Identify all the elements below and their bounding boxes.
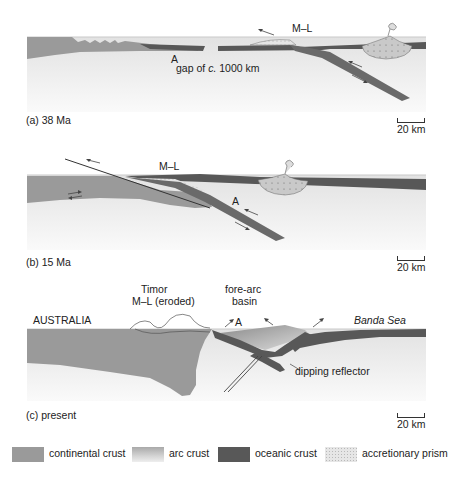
continental-crust-swatch	[12, 447, 44, 462]
label-a: A	[232, 195, 239, 207]
label-ml: M–L	[292, 22, 312, 34]
panel-caption: (a) 38 Ma	[26, 114, 71, 126]
label-ml: M–L	[159, 160, 179, 172]
panel-b: M–L A (b) 15 Ma 20 km	[0, 150, 468, 280]
legend: continental crust arc crust oceanic crus…	[10, 446, 460, 466]
label-timor: Timor	[141, 283, 167, 295]
accretionary-prism-swatch	[325, 447, 357, 462]
label-ml-eroded: M–L (eroded)	[132, 295, 195, 307]
panel-a: M–L A gap of c. 1000 km (a) 38 Ma 20 km	[0, 0, 468, 150]
label-gap: gap of c. 1000 km	[176, 62, 260, 74]
oceanic-crust-swatch	[218, 447, 250, 462]
label-basin: basin	[232, 295, 257, 307]
label-forearc: fore-arc	[225, 283, 261, 295]
panel-caption: (b) 15 Ma	[26, 256, 71, 268]
label-a: A	[235, 316, 242, 328]
panel-caption: (c) present	[26, 409, 76, 421]
label-australia: AUSTRALIA	[33, 314, 91, 326]
arc-crust-swatch	[132, 447, 164, 462]
label-banda-sea: Banda Sea	[354, 314, 406, 326]
label-dipping-reflector: dipping reflector	[295, 365, 370, 377]
